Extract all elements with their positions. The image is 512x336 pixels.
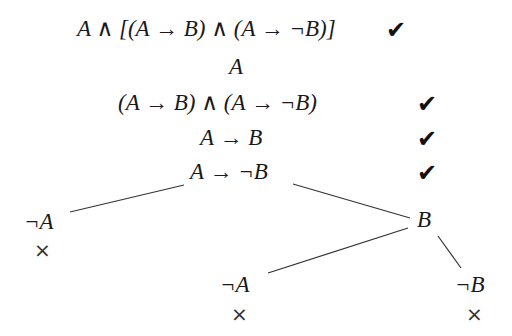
branch-right-B: B (417, 208, 431, 231)
formula-row-4: A → B (200, 126, 262, 149)
edge-B-to-notA (268, 228, 408, 273)
formula-row-5: A → ¬B (190, 160, 268, 183)
branch-B-child-notA: ¬A (220, 273, 250, 296)
formula-row-1: A ∧ [(A → B) ∧ (A → ¬B)] (77, 17, 336, 40)
closed-branch-icon: × (231, 304, 248, 324)
formula-text: ¬B (455, 272, 485, 297)
formula-text: A (229, 54, 243, 79)
branch-left-notA: ¬A (24, 210, 54, 233)
formula-text: A → B (200, 125, 262, 150)
closed-branch-icon: × (466, 304, 483, 324)
check-icon: ✔ (417, 161, 437, 185)
formula-text: A ∧ [(A → B) ∧ (A → ¬B)] (77, 16, 336, 41)
edge-root-to-left-notA (70, 185, 184, 212)
edge-B-to-notB (438, 236, 461, 268)
formula-text: B (417, 207, 431, 232)
formula-text: ¬A (220, 272, 250, 297)
formula-row-3: (A → B) ∧ (A → ¬B) (118, 91, 317, 114)
formula-text: A → ¬B (190, 159, 268, 184)
check-icon: ✔ (417, 127, 437, 151)
edge-root-to-B (293, 184, 410, 218)
formula-text: (A → B) ∧ (A → ¬B) (118, 90, 317, 115)
formula-text: ¬A (24, 209, 54, 234)
formula-row-2: A (229, 55, 243, 78)
branch-B-child-notB: ¬B (455, 273, 485, 296)
check-icon: ✔ (417, 92, 437, 116)
check-icon: ✔ (386, 18, 406, 42)
closed-branch-icon: × (34, 240, 51, 260)
